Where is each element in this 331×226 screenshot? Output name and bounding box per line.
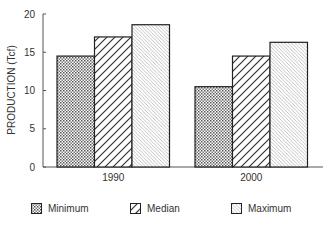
y-tick-label: 15 xyxy=(24,47,36,58)
legend-item-minimum: Minimum xyxy=(31,203,89,214)
chart-bars xyxy=(57,25,308,167)
legend-swatch-icon xyxy=(231,203,242,214)
bar-maximum-2000 xyxy=(270,42,308,167)
x-category-label: 2000 xyxy=(240,172,263,183)
y-tick-label: 10 xyxy=(24,85,36,96)
bar-maximum-1990 xyxy=(132,25,170,167)
legend-label: Maximum xyxy=(248,203,291,214)
bar-minimum-2000 xyxy=(195,87,233,167)
bar-chart: 05101520PRODUCTION (Tcf) 19902000 xyxy=(0,0,331,200)
chart-labels: 19902000 xyxy=(102,172,263,183)
legend-item-maximum: Maximum xyxy=(231,203,291,214)
x-category-label: 1990 xyxy=(102,172,125,183)
legend-label: Median xyxy=(147,203,180,214)
legend-label: Minimum xyxy=(48,203,89,214)
legend-swatch-icon xyxy=(130,203,141,214)
bar-median-2000 xyxy=(233,56,271,167)
bar-minimum-1990 xyxy=(57,56,95,167)
legend-swatch-icon xyxy=(31,203,42,214)
bar-median-1990 xyxy=(95,37,133,167)
chart-legend: MinimumMedianMaximum xyxy=(0,203,331,219)
y-tick-label: 5 xyxy=(29,123,35,134)
y-tick-label: 20 xyxy=(24,9,36,20)
y-axis-title: PRODUCTION (Tcf) xyxy=(6,45,17,134)
legend-item-median: Median xyxy=(130,203,180,214)
y-tick-label: 0 xyxy=(29,162,35,173)
